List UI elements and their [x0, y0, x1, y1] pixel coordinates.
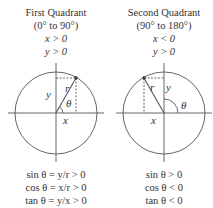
- q2-tan: tan θ < 0: [108, 194, 213, 207]
- q1-results: sin θ = y/r > 0 cos θ = x/r > 0 tan θ = …: [0, 168, 112, 207]
- q2-label-r: r: [150, 81, 155, 93]
- q1-label-theta: θ: [66, 97, 72, 109]
- q1-angle-arc: [60, 107, 64, 113]
- q1-cos: cos θ = x/r > 0: [0, 181, 112, 194]
- q2-sin: sin θ > 0: [108, 168, 213, 181]
- q1-point: [75, 77, 78, 80]
- q2-label-x: x: [150, 114, 156, 126]
- q2-label-theta: θ: [181, 99, 187, 111]
- q1-label-y: y: [45, 88, 51, 100]
- q2-label-y: y: [165, 81, 171, 93]
- q1-sin: sin θ = y/r > 0: [0, 168, 112, 181]
- q2-point: [143, 77, 146, 80]
- q1-label-r: r: [65, 82, 70, 94]
- q1-tan: tan θ = y/x > 0: [0, 194, 112, 207]
- q1-diagram: [8, 63, 104, 162]
- q2-diagram: [116, 63, 212, 162]
- q2-angle-arc: [164, 99, 178, 113]
- q1-label-x: x: [62, 114, 68, 126]
- q2-cos: cos θ < 0: [108, 181, 213, 194]
- q2-results: sin θ > 0 cos θ < 0 tan θ < 0: [108, 168, 213, 207]
